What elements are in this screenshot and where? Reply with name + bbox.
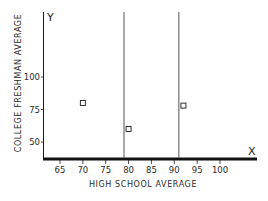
y-tick-label: 100: [24, 72, 40, 82]
data-point-marker: [126, 127, 131, 132]
data-points: [80, 101, 186, 132]
y-axis-ticks: 5075100: [24, 72, 44, 147]
x-tick-label: 75: [100, 165, 111, 175]
y-tick-label: 75: [29, 105, 40, 115]
y-axis-title: COLLEGE FRESHMAN AVERAGE: [14, 14, 23, 153]
vertical-reference-lines: [124, 12, 179, 158]
x-tick-label: 85: [146, 165, 157, 175]
x-tick-label: 90: [169, 165, 180, 175]
y-axis-letter: Y: [46, 11, 54, 24]
x-tick-label: 70: [77, 165, 88, 175]
x-tick-label: 80: [123, 165, 134, 175]
scatter-chart: 65707580859095100 5075100 Y X HIGH SCHOO…: [0, 0, 268, 201]
x-axis-title: HIGH SCHOOL AVERAGE: [89, 180, 197, 189]
x-tick-label: 65: [55, 165, 66, 175]
data-point-marker: [181, 103, 186, 108]
data-point-marker: [80, 101, 85, 106]
y-tick-label: 50: [29, 137, 40, 147]
x-tick-label: 100: [212, 165, 228, 175]
x-axis-letter: X: [248, 145, 256, 158]
x-tick-label: 95: [192, 165, 203, 175]
x-axis-ticks: 65707580859095100: [55, 160, 229, 175]
